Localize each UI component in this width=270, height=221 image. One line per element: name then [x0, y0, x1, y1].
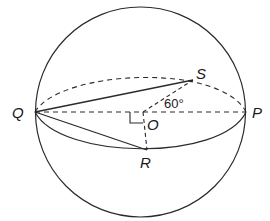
angle-label: 60°	[164, 96, 184, 111]
label-p: P	[252, 104, 262, 121]
label-q: Q	[12, 104, 24, 121]
label-s: S	[196, 65, 206, 82]
right-angle-marker	[130, 112, 143, 123]
sphere-diagram: Q P S O R 60°	[0, 0, 270, 221]
great-circle-front	[35, 112, 246, 149]
label-o: O	[147, 116, 159, 133]
label-r: R	[140, 154, 151, 171]
great-circle-back	[35, 77, 246, 112]
